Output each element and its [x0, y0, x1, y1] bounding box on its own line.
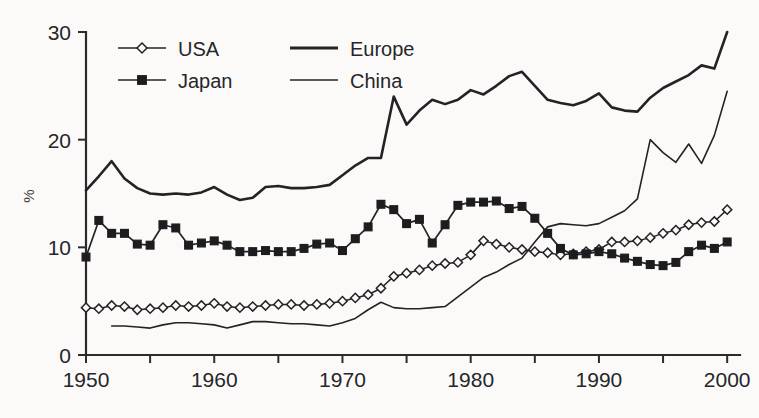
- data-point-marker: [94, 304, 103, 313]
- y-tick-label: 20: [48, 129, 71, 152]
- x-axis-ticks: [86, 355, 727, 363]
- series-japan: [82, 197, 731, 269]
- series-china: [112, 91, 728, 328]
- legend-marker-filled-square-icon: [138, 76, 147, 85]
- series-line-japan: [86, 201, 727, 266]
- data-point-marker: [133, 240, 141, 248]
- x-tick-label: 1960: [191, 368, 238, 391]
- data-point-marker: [210, 237, 218, 245]
- data-point-marker: [81, 303, 90, 312]
- data-point-marker: [607, 237, 616, 246]
- data-point-marker: [710, 245, 718, 253]
- data-point-marker: [467, 198, 475, 206]
- data-point-marker: [531, 214, 539, 222]
- data-point-marker: [222, 302, 231, 311]
- data-point-marker: [659, 262, 667, 270]
- data-point-marker: [377, 200, 385, 208]
- data-point-marker: [685, 248, 693, 256]
- legend-item-japan[interactable]: Japan: [118, 70, 233, 92]
- data-point-marker: [646, 233, 655, 242]
- data-point-marker: [364, 223, 372, 231]
- data-point-marker: [338, 297, 347, 306]
- y-tick-label: 10: [48, 236, 71, 259]
- chart-legend: USAEuropeJapanChina: [118, 38, 415, 92]
- data-point-marker: [492, 240, 501, 249]
- data-point-marker: [697, 218, 706, 227]
- data-point-marker: [171, 301, 180, 310]
- data-point-marker: [608, 250, 616, 258]
- data-point-marker: [326, 239, 334, 247]
- data-point-marker: [698, 241, 706, 249]
- data-point-marker: [95, 217, 103, 225]
- y-tick-label: 0: [59, 344, 71, 367]
- data-point-marker: [364, 290, 373, 299]
- data-point-marker: [287, 248, 295, 256]
- data-point-marker: [518, 203, 526, 211]
- data-point-marker: [325, 299, 334, 308]
- data-point-marker: [505, 243, 514, 252]
- data-point-marker: [428, 239, 436, 247]
- data-point-marker: [453, 258, 462, 267]
- data-point-marker: [415, 265, 424, 274]
- data-point-marker: [158, 303, 167, 312]
- legend-item-usa[interactable]: USA: [118, 38, 220, 60]
- data-point-marker: [530, 247, 539, 256]
- data-point-marker: [723, 238, 731, 246]
- chart-page: 0102030 195019601970198019902000 % USAEu…: [0, 0, 759, 418]
- data-point-marker: [82, 253, 90, 261]
- data-point-marker: [312, 300, 321, 309]
- data-point-marker: [184, 302, 193, 311]
- legend-label-china: China: [350, 70, 403, 92]
- data-point-marker: [261, 301, 270, 310]
- data-point-marker: [595, 248, 603, 256]
- data-point-marker: [505, 205, 513, 213]
- x-tick-label: 1950: [63, 368, 110, 391]
- data-point-marker: [557, 245, 565, 253]
- data-point-marker: [390, 206, 398, 214]
- data-point-marker: [146, 241, 154, 249]
- data-point-marker: [684, 220, 693, 229]
- data-point-marker: [620, 237, 629, 246]
- legend-item-europe[interactable]: Europe: [290, 38, 415, 60]
- x-tick-label: 1980: [447, 368, 494, 391]
- data-point-marker: [671, 226, 680, 235]
- data-point-marker: [159, 221, 167, 229]
- data-point-marker: [621, 254, 629, 262]
- data-point-marker: [428, 261, 437, 270]
- data-point-marker: [248, 302, 257, 311]
- y-axis-tick-labels: 0102030: [48, 21, 71, 367]
- data-point-marker: [441, 221, 449, 229]
- legend-item-china[interactable]: China: [290, 70, 403, 92]
- data-point-marker: [569, 251, 577, 259]
- data-point-marker: [402, 269, 411, 278]
- data-point-marker: [120, 302, 129, 311]
- data-point-marker: [492, 197, 500, 205]
- data-point-marker: [582, 250, 590, 258]
- x-tick-label: 2000: [704, 368, 751, 391]
- data-point-marker: [633, 236, 642, 245]
- data-point-marker: [313, 240, 321, 248]
- data-point-marker: [108, 229, 116, 237]
- data-point-marker: [235, 303, 244, 312]
- data-point-marker: [672, 259, 680, 267]
- data-point-marker: [185, 241, 193, 249]
- data-point-marker: [351, 293, 360, 302]
- data-point-marker: [658, 229, 667, 238]
- data-point-marker: [517, 245, 526, 254]
- data-point-marker: [223, 241, 231, 249]
- data-point-marker: [274, 248, 282, 256]
- data-point-marker: [416, 215, 424, 223]
- data-point-marker: [274, 300, 283, 309]
- data-point-marker: [210, 299, 219, 308]
- data-point-marker: [107, 301, 116, 310]
- data-point-marker: [440, 259, 449, 268]
- legend-label-japan: Japan: [178, 70, 233, 92]
- data-point-marker: [634, 257, 642, 265]
- data-point-marker: [287, 300, 296, 309]
- legend-label-usa: USA: [178, 38, 220, 60]
- data-point-marker: [198, 239, 206, 247]
- series-line-china: [112, 91, 728, 328]
- data-point-marker: [646, 261, 654, 269]
- x-tick-label: 1990: [576, 368, 623, 391]
- data-point-marker: [454, 201, 462, 209]
